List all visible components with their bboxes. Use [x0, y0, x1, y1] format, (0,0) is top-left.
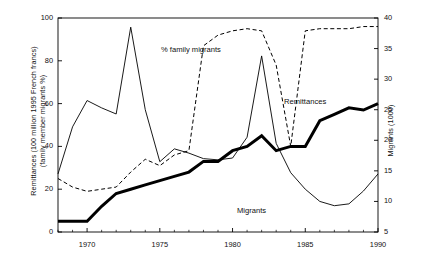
y-axis-right-tick-40: 40 — [384, 13, 392, 22]
y-axis-left-tick-60: 60 — [45, 99, 53, 108]
y-axis-left-tick-40: 40 — [45, 141, 53, 150]
y-axis-left-tick-100: 100 — [41, 13, 53, 22]
y-axis-left-tick-20: 20 — [45, 184, 53, 193]
series-label-family-migrants: % family migrants — [161, 45, 221, 54]
x-axis-tick-1975: 1975 — [152, 240, 168, 249]
y-axis-right-tick-5: 5 — [384, 227, 388, 236]
y-axis-right-tick-20: 20 — [384, 135, 392, 144]
series-line-remittances — [58, 104, 378, 222]
x-axis-tick-1980: 1980 — [224, 240, 240, 249]
x-axis-tick-1970: 1970 — [79, 240, 95, 249]
x-axis-tick-1990: 1990 — [370, 240, 386, 249]
y-axis-right-tick-25: 25 — [384, 105, 392, 114]
x-axis-tick-1985: 1985 — [297, 240, 313, 249]
y-axis-right-tick-15: 15 — [384, 166, 392, 175]
y-axis-right-tick-30: 30 — [384, 74, 392, 83]
series-label-migrants: Migrants — [237, 206, 266, 215]
y-axis-left-tick-80: 80 — [45, 56, 53, 65]
y-axis-right-tick-35: 35 — [384, 44, 392, 53]
y-axis-left-tick-0: 0 — [49, 227, 53, 236]
series-label-remittances: Remittances — [284, 97, 326, 106]
y-axis-right-tick-10: 10 — [384, 196, 392, 205]
plot-canvas — [0, 0, 422, 268]
chart-figure: Remittances (100 million 1995 French fra… — [0, 0, 422, 268]
